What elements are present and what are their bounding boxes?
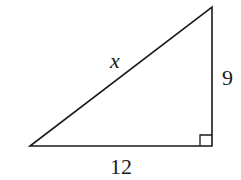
hypotenuse-label: x	[109, 48, 120, 73]
right-triangle-diagram: x 9 12	[0, 0, 241, 180]
triangle	[30, 7, 212, 146]
vertical-leg-label: 9	[222, 65, 233, 90]
right-angle-marker	[200, 135, 212, 146]
horizontal-leg-label: 12	[110, 154, 132, 179]
